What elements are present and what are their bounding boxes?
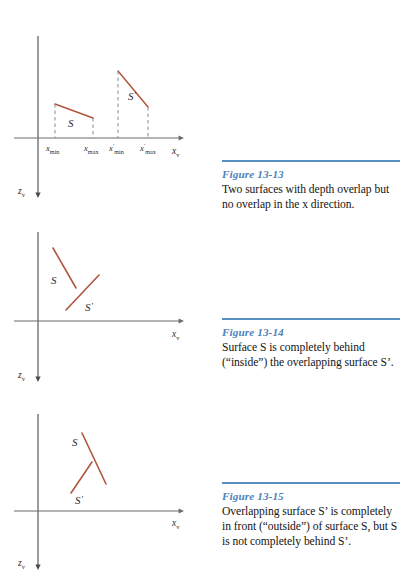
tick-label-xmin: xmin [45,143,59,155]
figure-13-15-caption: Figure 13-15 Overlapping surface S’ is c… [222,482,402,549]
caption-rule [222,482,400,484]
surface-s-prime-label: S’ [75,494,84,506]
figure-caption-text: Overlapping surface S’ is completely in … [222,504,402,550]
tick-label-xprime-min: x′min [108,143,124,155]
figure-13-13-diagram: S S’ xmin xmax x′min x′max xv zv [0,14,215,204]
caption-rule [222,318,400,320]
figure-13-14-caption: Figure 13-14 Surface S is completely beh… [222,318,402,370]
caption-line: Surface S is completely behind [222,341,365,354]
tick-label-xmax: xmax [83,143,99,155]
x-axis-label: xv [171,518,180,530]
surface-s-label: S [68,117,74,129]
surface-s-segment [82,433,106,484]
figure-title: Figure 13-13 [222,167,402,181]
surface-s-curve [55,104,93,118]
x-axis-arrow [179,318,184,323]
caption-line: Two surfaces with depth overlap [222,183,372,196]
tick-label-xprime-max: x′max [139,143,157,155]
caption-line: S’. [381,356,394,369]
figure-13-14-diagram: S S’ xv zv [0,218,215,393]
caption-line: (“inside”) the overlapping surface [222,356,378,369]
z-axis-label: zv [17,186,26,198]
x-axis-arrow [179,508,184,513]
z-axis-arrow [35,193,40,198]
figure-caption-text: Surface S is completely behind (“inside”… [222,340,402,371]
figure-title: Figure 13-15 [222,489,402,503]
z-axis-arrow [35,377,40,382]
textbook-figure-page: S S’ xmin xmax x′min x′max xv zv S S’ [0,0,410,585]
figure-13-13-svg: S S’ xmin xmax x′min x′max xv zv [0,14,215,204]
z-axis-label: zv [17,370,26,382]
caption-line: Overlapping surface S’ is [222,505,338,518]
figure-13-15-diagram: S S’ xv zv [0,400,215,585]
figure-caption-text: Two surfaces with depth overlap but no o… [222,182,402,213]
surface-s-prime-segment [71,462,92,493]
surface-s-label: S [72,436,78,448]
z-axis-arrow [35,565,40,570]
caption-rule [222,160,400,162]
x-axis-label: xv [171,146,180,158]
x-axis-label: xv [171,329,180,341]
surface-s-label: S [51,274,57,286]
figure-13-14-svg: S S’ xv zv [0,218,215,393]
z-axis-label: zv [17,558,26,570]
surface-s-prime-label: S’ [85,301,94,313]
x-axis-arrow [179,135,184,140]
figure-13-13-caption: Figure 13-13 Two surfaces with depth ove… [222,160,402,212]
surface-s-prime-label: S’ [128,90,137,102]
figure-13-15-svg: S S’ xv zv [0,400,215,585]
caption-line: behind S’. [304,535,351,548]
figure-title: Figure 13-14 [222,325,402,339]
